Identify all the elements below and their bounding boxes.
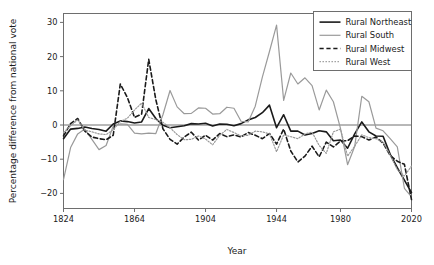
- x-tick-label: 1864: [124, 214, 145, 224]
- line-chart: 3020100−10−20 182418641904194419802020 R…: [0, 0, 434, 265]
- y-tick-label: 10: [47, 86, 57, 96]
- legend-label-rural-west[interactable]: Rural West: [346, 57, 392, 67]
- legend-label-rural-south[interactable]: Rural South: [346, 30, 395, 40]
- y-tick-label: 20: [47, 52, 57, 62]
- x-tick-label: 1944: [266, 214, 287, 224]
- x-tick-label: 1824: [53, 214, 74, 224]
- x-tick-label: 1980: [330, 214, 351, 224]
- y-tick-label: 30: [47, 17, 57, 27]
- legend-label-rural-midwest[interactable]: Rural Midwest: [346, 44, 406, 54]
- x-tick-label: 2020: [401, 214, 422, 224]
- x-tick-label: 1904: [195, 214, 216, 224]
- x-axis-title: Year: [226, 246, 246, 256]
- chart-legend[interactable]: Rural NortheastRural SouthRural MidwestR…: [314, 12, 412, 71]
- y-tick-label: −10: [40, 154, 57, 164]
- chart-figure: 3020100−10−20 182418641904194419802020 R…: [0, 0, 434, 265]
- y-axis-title: Percentage difference from national vote: [8, 18, 18, 203]
- y-tick-label: 0: [52, 120, 57, 130]
- y-tick-label: −20: [40, 188, 57, 198]
- legend-label-rural-northeast[interactable]: Rural Northeast: [346, 17, 412, 27]
